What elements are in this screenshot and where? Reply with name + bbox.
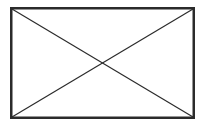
image-placeholder-icon <box>10 7 195 119</box>
image-placeholder <box>10 7 195 119</box>
